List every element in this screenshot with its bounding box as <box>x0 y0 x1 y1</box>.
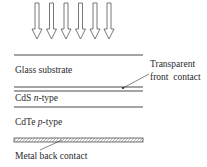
arrow-icon <box>32 3 42 39</box>
metal-back-contact-band <box>14 138 143 142</box>
front-contact-label-line1: Transparent <box>150 60 195 70</box>
solar-cell-diagram <box>0 0 207 167</box>
arrow-icon <box>104 3 114 39</box>
incident-light-arrows <box>32 3 114 39</box>
cdte-label: CdTe p-type <box>15 118 62 128</box>
glass-substrate-label: Glass substrate <box>15 66 72 76</box>
cds-label: CdS n-type <box>15 94 58 104</box>
arrow-icon <box>61 3 71 39</box>
front-contact-leader <box>123 74 149 88</box>
metal-back-contact-label: Metal back contact <box>15 152 87 162</box>
arrow-icon <box>76 3 86 39</box>
arrow-icon <box>47 3 57 39</box>
cds-label-prefix: CdS <box>15 93 34 103</box>
cdte-label-suffix: -type <box>43 117 63 127</box>
front-contact-label-line2: front contact <box>150 73 201 83</box>
arrow-icon <box>90 3 100 39</box>
cdte-label-prefix: CdTe <box>15 117 38 127</box>
cds-label-suffix: -type <box>39 93 59 103</box>
